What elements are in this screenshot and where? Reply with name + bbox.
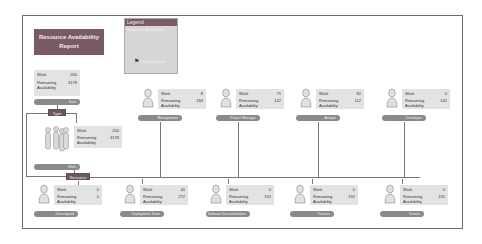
- resource-card[interactable]: Work0 Remaining Availability142: [402, 89, 450, 109]
- remaining-label: Remaining Availability: [77, 135, 101, 145]
- work-label: Work: [239, 91, 248, 96]
- work-value: 200: [112, 128, 119, 133]
- person-icon: [220, 88, 232, 108]
- remaining-label: Remaining Availability: [161, 98, 185, 108]
- remaining-value: 3178: [110, 135, 119, 145]
- remaining-value: 122: [274, 98, 281, 108]
- remaining-label: Remaining Availability: [239, 98, 263, 108]
- work-label: Work: [405, 91, 414, 96]
- total-card[interactable]: Work200 Remaining Availability3178: [34, 70, 80, 96]
- remaining-label: Remaining Availability: [405, 98, 429, 108]
- remaining-value: 3178: [68, 80, 77, 90]
- person-icon: [294, 184, 306, 204]
- work-value: 0: [97, 187, 99, 192]
- remaining-value: 192: [438, 194, 445, 204]
- work-label: Work: [403, 187, 412, 192]
- remaining-value: 192: [264, 194, 271, 204]
- resource-card[interactable]: Work82 Remaining Availability112: [316, 89, 364, 109]
- resource-card[interactable]: Work0 Remaining Availability192: [226, 185, 274, 205]
- legend-subtitle: Resource Availability: [125, 26, 177, 33]
- work-label: Work: [319, 91, 328, 96]
- person-icon: [124, 184, 136, 204]
- flag-icon: ⚑: [134, 57, 139, 64]
- remaining-value: 192: [348, 194, 355, 204]
- work-group-card[interactable]: Work200 Remaining Availability3178: [74, 126, 122, 148]
- work-value: 0: [443, 187, 445, 192]
- resource-name-pill[interactable]: Management: [138, 115, 182, 121]
- remaining-value: 184: [196, 98, 203, 108]
- person-icon: [142, 88, 154, 108]
- work-value: 0: [353, 187, 355, 192]
- resource-card[interactable]: Work0 Remaining Availability192: [400, 185, 448, 205]
- remaining-label: Remaining Availability: [229, 194, 253, 204]
- remaining-value: 112: [355, 98, 361, 108]
- remaining-label: Remaining Availability: [57, 194, 81, 204]
- remaining-label: Remaining Availability: [319, 98, 343, 108]
- work-label: Work: [77, 128, 86, 133]
- remaining-label: Remaining Availability: [313, 194, 337, 204]
- remaining-value: 0: [97, 194, 99, 204]
- work-value: 82: [357, 91, 361, 96]
- work-value: 200: [70, 72, 77, 77]
- remaining-label: Remaining Availability: [37, 80, 61, 90]
- report-title: Resource Availability Report: [34, 29, 104, 55]
- legend: Legend Resource Availability ⚑ Overalloc…: [124, 18, 178, 74]
- person-icon: [386, 88, 398, 108]
- person-icon: [384, 184, 396, 204]
- resource-name-pill[interactable]: Testers: [380, 211, 424, 217]
- work-value: 40: [181, 187, 185, 192]
- resource-card[interactable]: Work0 Remaining Availability192: [310, 185, 358, 205]
- work-label: Work: [57, 187, 66, 192]
- person-icon: [300, 88, 312, 108]
- resource-name-pill[interactable]: Unassigned: [34, 211, 78, 217]
- remaining-label: Remaining Availability: [143, 194, 167, 204]
- type-connector: Type: [48, 109, 66, 116]
- resource-card[interactable]: Work75 Remaining Availability122: [236, 89, 284, 109]
- resource-name-pill[interactable]: Deployment Team: [120, 211, 164, 217]
- remaining-value: 272: [178, 194, 185, 204]
- resource-name-pill[interactable]: Developer: [382, 115, 426, 121]
- work-value: 8: [201, 91, 203, 96]
- resource-name-pill[interactable]: Analyst: [296, 115, 340, 121]
- resource-name-pill[interactable]: Software Documentation: [206, 211, 250, 217]
- legend-header: Legend: [125, 19, 177, 26]
- work-value: 0: [445, 91, 447, 96]
- resource-name-pill[interactable]: Trainers: [290, 211, 334, 217]
- work-value: 0: [269, 187, 271, 192]
- remaining-value: 142: [440, 98, 447, 108]
- work-label: Work: [313, 187, 322, 192]
- resource-name-pill[interactable]: Project Manager: [216, 115, 260, 121]
- resource-card[interactable]: Work0 Remaining Availability0: [54, 185, 102, 205]
- person-icon: [210, 184, 222, 204]
- work-value: 75: [277, 91, 281, 96]
- work-label: Work: [229, 187, 238, 192]
- person-icon: [38, 184, 50, 204]
- legend-flag-label: Overallocated: [140, 59, 165, 64]
- group-icon: [42, 125, 72, 155]
- work-label: Work: [143, 187, 152, 192]
- remaining-label: Remaining Availability: [403, 194, 427, 204]
- resource-card[interactable]: Work40 Remaining Availability272: [140, 185, 188, 205]
- work-label: Work: [37, 72, 46, 77]
- resource-card[interactable]: Work8 Remaining Availability184: [158, 89, 206, 109]
- work-label: Work: [161, 91, 170, 96]
- resource-connector: Resource: [66, 173, 90, 180]
